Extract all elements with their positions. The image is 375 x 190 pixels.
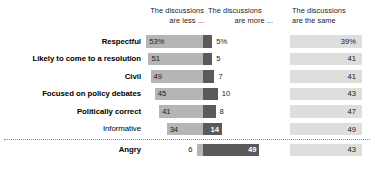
bar-less: 34	[167, 123, 203, 136]
bar-more-container: 14	[203, 123, 293, 136]
bar-less-value: 41	[162, 107, 170, 116]
bar-same-value: 47	[348, 107, 356, 116]
bar-less: 49	[151, 70, 203, 83]
bar-more-value: 5%	[216, 37, 227, 46]
bar-less-value: 45	[158, 89, 166, 98]
bar-more-value: 10	[222, 89, 230, 98]
bar-more-container: 5	[203, 53, 293, 66]
bar-less-container: 41	[0, 105, 203, 118]
bar-more-container: 8	[203, 105, 293, 118]
bar-more-value: 7	[218, 72, 222, 81]
bar-less-container: 51	[0, 53, 203, 66]
bar-same: 43	[290, 88, 362, 101]
bar-less-container: 53%	[0, 35, 203, 48]
column-header-less: The discussions are less ...	[132, 6, 204, 26]
bar-more-container: 7	[203, 70, 293, 83]
bar-same: 49	[290, 123, 362, 136]
bar-less: 41	[159, 105, 203, 118]
bar-less-container: 34	[0, 123, 203, 136]
chart-rows: Respectful53%5%39%Likely to come to a re…	[0, 34, 375, 162]
row-separator	[4, 139, 370, 140]
bar-more-container: 5%	[203, 35, 293, 48]
bar-more: 5%	[203, 35, 212, 48]
column-header-same-line2: are the same	[292, 16, 372, 26]
bar-same: 41	[290, 70, 362, 83]
bar-more-container: 10	[203, 88, 293, 101]
bar-less: 51	[148, 53, 203, 66]
bar-more-container: 49	[203, 144, 293, 157]
bar-same: 43	[290, 144, 362, 157]
bar-more-value: 8	[220, 107, 224, 116]
bar-same-value: 39%	[341, 37, 356, 46]
bar-less-value: 49	[154, 72, 162, 81]
bar-more-value: 14	[211, 125, 219, 134]
column-headers: The discussions are less ... The discuss…	[0, 6, 375, 32]
column-header-same: The discussions are the same	[292, 6, 372, 26]
bar-same-value: 43	[348, 145, 356, 154]
bar-more: 49	[203, 144, 259, 157]
paired-bar-chart: The discussions are less ... The discuss…	[0, 0, 375, 190]
bar-same-value: 41	[348, 72, 356, 81]
bar-less-value: 51	[151, 54, 159, 63]
chart-row: Respectful53%5%39%	[0, 34, 375, 52]
bar-less-value: 6	[188, 145, 192, 154]
column-header-less-line2: are less ...	[132, 16, 204, 26]
chart-row: Focused on policy debates451043	[0, 87, 375, 105]
bar-less: 53%	[146, 35, 203, 48]
bar-less-value: 34	[170, 125, 178, 134]
bar-less-container: 49	[0, 70, 203, 83]
bar-same: 39%	[290, 35, 362, 48]
bar-more: 14	[203, 123, 222, 136]
bar-same-value: 41	[348, 54, 356, 63]
bar-same-value: 49	[348, 125, 356, 134]
column-header-less-line1: The discussions	[132, 6, 204, 16]
bar-less-container: 6	[0, 144, 203, 157]
bar-more: 8	[203, 105, 216, 118]
bar-less-container: 45	[0, 88, 203, 101]
chart-row: Politically correct41847	[0, 104, 375, 122]
bar-same: 47	[290, 105, 362, 118]
bar-same-value: 43	[348, 89, 356, 98]
chart-row: Civil49741	[0, 69, 375, 87]
bar-less-value: 53%	[149, 37, 164, 46]
bar-more: 10	[203, 88, 218, 101]
bar-same: 41	[290, 53, 362, 66]
column-header-more-line2: are more ...	[208, 16, 282, 26]
bar-more-value: 5	[216, 54, 220, 63]
column-header-same-line1: The discussions	[292, 6, 372, 16]
bar-more-value: 49	[248, 145, 256, 154]
chart-row: Likely to come to a resolution51541	[0, 52, 375, 70]
chart-row: Angry64943	[0, 140, 375, 162]
chart-row: Informative341449	[0, 122, 375, 140]
column-header-more: The discussions are more ...	[208, 6, 282, 26]
bar-more: 5	[203, 53, 212, 66]
bar-more: 7	[203, 70, 214, 83]
bar-less: 45	[155, 88, 203, 101]
column-header-more-line1: The discussions	[208, 6, 282, 16]
